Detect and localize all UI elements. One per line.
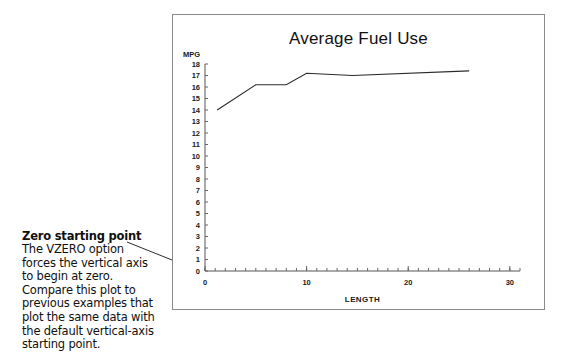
svg-text:18: 18 (192, 60, 200, 69)
annotation-line: Compare this plot to (22, 284, 162, 298)
series-line (217, 71, 469, 110)
svg-text:14: 14 (192, 106, 201, 115)
annotation-line: The VZERO option (22, 243, 162, 257)
annotation-line: starting point. (22, 338, 162, 352)
svg-text:4: 4 (196, 221, 201, 230)
svg-text:7: 7 (196, 186, 200, 195)
svg-text:1: 1 (196, 255, 200, 264)
svg-text:16: 16 (192, 83, 200, 92)
svg-text:9: 9 (196, 163, 200, 172)
annotation-heading: Zero starting point (22, 229, 162, 243)
annotation-line: previous examples that (22, 297, 162, 311)
svg-text:10: 10 (302, 278, 310, 287)
svg-text:20: 20 (404, 278, 412, 287)
annotation-line: forces the vertical axis (22, 257, 162, 271)
svg-text:13: 13 (192, 117, 200, 126)
annotation-line: plot the same data with (22, 311, 162, 325)
svg-text:6: 6 (196, 198, 200, 207)
svg-text:0: 0 (196, 267, 200, 276)
chart-frame: Average Fuel Use 01234567891011121314151… (172, 14, 545, 310)
svg-text:30: 30 (506, 278, 514, 287)
svg-text:MPG: MPG (183, 50, 200, 59)
svg-text:15: 15 (192, 94, 200, 103)
svg-text:17: 17 (192, 71, 200, 80)
svg-text:10: 10 (192, 152, 200, 161)
chart-plot-area: 0123456789101112131415161718MPG0102030LE… (173, 15, 546, 311)
svg-text:8: 8 (196, 175, 200, 184)
annotation-block: Zero starting point The VZERO option for… (22, 229, 162, 352)
svg-text:5: 5 (196, 209, 200, 218)
svg-text:11: 11 (192, 140, 200, 149)
annotation-body: The VZERO option forces the vertical axi… (22, 243, 162, 352)
annotation-line: the default vertical-axis (22, 325, 162, 339)
svg-text:0: 0 (203, 278, 207, 287)
svg-text:3: 3 (196, 232, 200, 241)
annotation-line: to begin at zero. (22, 270, 162, 284)
svg-text:12: 12 (192, 129, 200, 138)
svg-text:LENGTH: LENGTH (345, 295, 380, 304)
svg-text:2: 2 (196, 244, 200, 253)
